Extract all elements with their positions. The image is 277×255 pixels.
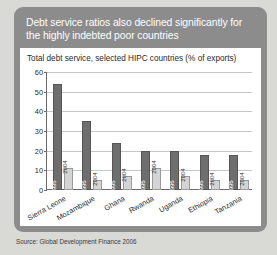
bar-1995[interactable]: 1995 [53, 84, 62, 190]
title-banner: Debt service ratios also declined signif… [14, 7, 267, 49]
y-axis-tick-label: 40 [35, 107, 43, 116]
y-axis-tick-label: 0 [39, 186, 43, 195]
chart-panel: Total debt service, selected HIPC countr… [20, 48, 261, 226]
bar-group: 19952004 [82, 72, 102, 190]
bar-1995[interactable]: 1995 [112, 143, 121, 190]
bar-label-1995: 1995 [227, 180, 234, 193]
bar-1995[interactable]: 1995 [229, 155, 238, 190]
bar-group: 19952004 [170, 72, 190, 190]
bar-2004[interactable]: 2004 [93, 180, 102, 190]
bar-label-1995: 1995 [109, 180, 116, 193]
bar-label-2004: 2004 [208, 172, 215, 185]
bar-label-2004: 2004 [61, 161, 68, 174]
bar-label-2004: 2004 [91, 172, 98, 185]
y-axis-line [46, 72, 47, 190]
bar-label-1995: 1995 [50, 180, 57, 193]
bar-1995[interactable]: 1995 [82, 121, 91, 190]
bar-label-2004: 2004 [179, 169, 186, 182]
bar-group: 19952004 [112, 72, 132, 190]
source-note: Source: Global Development Finance 2006 [16, 238, 136, 245]
bar-group: 19952004 [200, 72, 220, 190]
chart-card: Debt service ratios also declined signif… [14, 7, 267, 232]
bar-2004[interactable]: 2004 [64, 168, 73, 190]
bar-label-2004: 2004 [238, 172, 245, 185]
bar-label-2004: 2004 [120, 169, 127, 182]
y-axis-tick-label: 20 [35, 146, 43, 155]
bar-label-2004: 2004 [150, 161, 157, 174]
y-axis-tick-label: 10 [35, 166, 43, 175]
y-axis-tick-label: 30 [35, 127, 43, 136]
y-axis-tick-label: 60 [35, 68, 43, 77]
bar-label-1995: 1995 [168, 180, 175, 193]
page-title: Debt service ratios also declined signif… [26, 16, 255, 42]
bar-label-1995: 1995 [197, 180, 204, 193]
bar-group: 19952004 [53, 72, 73, 190]
bar-2004[interactable]: 2004 [211, 180, 220, 190]
bar-2004[interactable]: 2004 [240, 180, 249, 190]
bar-label-1995: 1995 [139, 180, 146, 193]
bar-2004[interactable]: 2004 [152, 168, 161, 190]
figure-root: Debt service ratios also declined signif… [0, 0, 277, 255]
plot-area: 0102030405060 19952004199520041995200419… [46, 72, 252, 190]
bar-2004[interactable]: 2004 [181, 176, 190, 190]
bar-1995[interactable]: 1995 [141, 151, 150, 190]
chart-subtitle: Total debt service, selected HIPC countr… [27, 54, 236, 63]
y-axis-tick-mark [44, 190, 47, 191]
y-axis-tick-label: 50 [35, 87, 43, 96]
bar-label-1995: 1995 [80, 180, 87, 193]
bar-group: 19952004 [141, 72, 161, 190]
bar-group: 19952004 [229, 72, 249, 190]
bar-2004[interactable]: 2004 [123, 176, 132, 190]
